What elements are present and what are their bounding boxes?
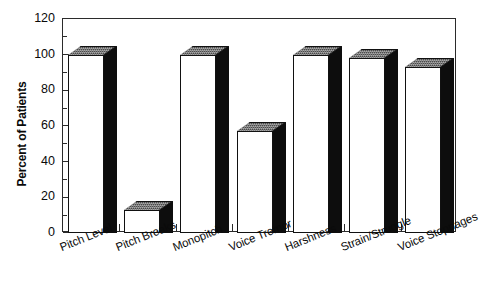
y-tick-label: 0 <box>21 226 55 239</box>
bar <box>180 19 229 233</box>
y-minor-tick <box>63 215 67 216</box>
bar <box>237 19 286 233</box>
bar <box>349 19 398 233</box>
bar-side-face <box>385 49 398 233</box>
bar-side-face <box>216 46 229 233</box>
bar-front-face <box>349 58 385 233</box>
bar-front-face <box>405 67 441 233</box>
x-boundary-tick <box>119 224 120 231</box>
x-boundary-tick <box>344 224 345 231</box>
y-tick-label: 20 <box>21 190 55 203</box>
x-boundary-tick <box>232 224 233 231</box>
y-minor-tick <box>63 179 67 180</box>
bar-front-face <box>180 55 216 233</box>
y-minor-tick <box>63 72 67 73</box>
y-tick-label: 100 <box>21 48 55 61</box>
plot-area <box>62 18 456 232</box>
bar-side-face <box>329 46 342 233</box>
bar-front-face <box>237 131 273 233</box>
bar-side-face <box>441 58 454 233</box>
y-tick-label: 80 <box>21 83 55 96</box>
y-tick-label: 60 <box>21 119 55 132</box>
y-minor-tick <box>63 143 67 144</box>
y-axis-tick-labels: 020406080100120 <box>21 0 55 290</box>
y-tick-label: 120 <box>21 12 55 25</box>
bar <box>68 19 117 233</box>
bar-side-face <box>273 122 286 233</box>
bar <box>293 19 342 233</box>
y-tick-label: 40 <box>21 155 55 168</box>
bar <box>405 19 454 233</box>
y-minor-tick <box>63 36 67 37</box>
bar-side-face <box>104 46 117 233</box>
y-minor-tick <box>63 108 67 109</box>
bar-front-face <box>293 55 329 233</box>
bar-front-face <box>68 55 104 233</box>
bar <box>124 19 173 233</box>
